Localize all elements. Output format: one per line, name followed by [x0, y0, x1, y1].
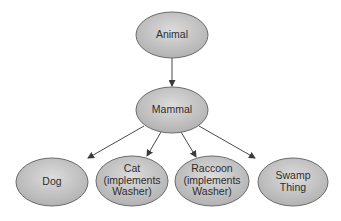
- node-cat: Cat(implementsWasher): [96, 156, 168, 206]
- node-swamp-thing: SwampThing: [258, 158, 328, 206]
- node-label: Dog: [42, 175, 61, 187]
- node-label: Thing: [280, 181, 306, 193]
- arrow-mammal-to-raccoon: [181, 132, 196, 157]
- node-label: Washer): [192, 185, 231, 197]
- node-label: Mammal: [152, 103, 192, 115]
- node-dog: Dog: [16, 158, 88, 206]
- arrow-mammal-to-cat: [147, 132, 161, 156]
- arrow-mammal-to-dog: [88, 126, 144, 158]
- node-label: Washer): [112, 185, 151, 197]
- node-label: (implements: [103, 174, 160, 186]
- node-animal: Animal: [136, 12, 208, 58]
- nodes-layer: AnimalMammalDogCat(implementsWasher)Racc…: [16, 12, 328, 206]
- node-label: Swamp: [275, 169, 310, 181]
- class-hierarchy-diagram: AnimalMammalDogCat(implementsWasher)Racc…: [0, 0, 341, 221]
- node-label: Animal: [156, 28, 188, 40]
- node-label: (implements: [183, 174, 240, 186]
- node-mammal: Mammal: [136, 87, 208, 133]
- node-label: Raccoon: [191, 162, 233, 174]
- node-label: Cat: [124, 162, 140, 174]
- arrow-mammal-to-swamp-thing: [199, 126, 255, 158]
- node-raccoon: Raccoon(implementsWasher): [175, 156, 249, 206]
